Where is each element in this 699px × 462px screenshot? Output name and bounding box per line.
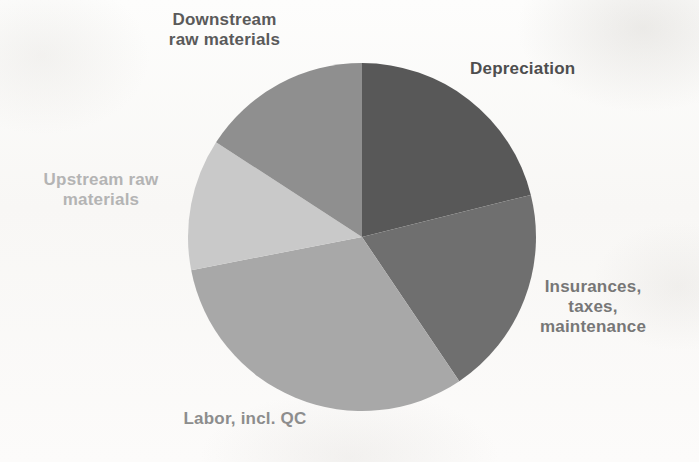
slice-label-insurances-taxes-maintenance: Insurances, taxes, maintenance xyxy=(502,277,684,337)
slice-label-downstream-raw-materials: Downstream raw materials xyxy=(122,10,327,50)
pie-chart-figure: Downstream raw materials Depreciation Up… xyxy=(0,0,699,462)
pie-chart-graphic xyxy=(187,62,537,412)
slice-label-depreciation: Depreciation xyxy=(470,59,670,79)
pie-slice-group xyxy=(188,63,536,411)
slice-label-upstream-raw-materials: Upstream raw materials xyxy=(16,170,186,210)
slice-label-labor-incl-qc: Labor, incl. QC xyxy=(130,409,360,429)
pie-svg xyxy=(187,62,537,412)
